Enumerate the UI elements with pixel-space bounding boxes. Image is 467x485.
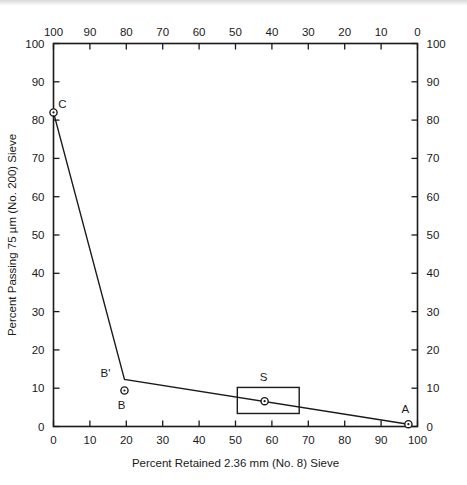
x-tick-label-bottom: 90: [375, 434, 388, 446]
data-point-center-A: [407, 423, 409, 425]
y-tick-label-left: 90: [32, 76, 45, 88]
y-tick-label-left: 100: [25, 38, 44, 50]
point-label-A: A: [402, 403, 410, 415]
y-tick-label-left: 10: [32, 382, 45, 394]
x-tick-label-bottom: 20: [120, 434, 133, 446]
x-axis-title: Percent Retained 2.36 mm (No. 8) Sieve: [132, 457, 339, 469]
x-tick-label-bottom: 0: [50, 434, 56, 446]
y-tick-label-right: 100: [427, 38, 446, 50]
x-tick-label-top: 40: [266, 26, 279, 38]
y-tick-label-right: 70: [427, 152, 440, 164]
x-tick-label-top: 100: [44, 26, 63, 38]
y-tick-label-right: 20: [427, 344, 440, 356]
x-tick-label-bottom: 60: [266, 434, 279, 446]
y-tick-label-left: 70: [32, 152, 45, 164]
y-tick-label-right: 0: [427, 421, 433, 433]
x-tick-label-bottom: 10: [84, 434, 97, 446]
y-tick-label-right: 80: [427, 114, 440, 126]
y-axis-title: Percent Passing 75 µm (No. 200) Sieve: [6, 134, 18, 336]
data-point-center-B: [123, 389, 125, 391]
x-tick-label-bottom: 70: [302, 434, 315, 446]
y-tick-label-left: 50: [32, 229, 45, 241]
x-tick-label-top: 0: [414, 26, 420, 38]
y-tick-label-right: 10: [427, 382, 440, 394]
point-label-C: C: [58, 98, 66, 110]
x-tick-label-top: 20: [338, 26, 351, 38]
x-tick-label-top: 90: [84, 26, 97, 38]
x-tick-label-bottom: 80: [338, 434, 351, 446]
sieve-gradation-chart: 0102030405060708090100100908070605040302…: [0, 0, 467, 485]
x-tick-label-top: 80: [120, 26, 133, 38]
x-tick-label-bottom: 30: [156, 434, 169, 446]
x-tick-label-top: 10: [375, 26, 388, 38]
y-tick-label-left: 0: [38, 421, 44, 433]
y-tick-label-right: 30: [427, 306, 440, 318]
chart-canvas: 0102030405060708090100100908070605040302…: [0, 0, 467, 485]
y-tick-label-left: 20: [32, 344, 45, 356]
x-tick-label-bottom: 100: [408, 434, 427, 446]
y-tick-label-right: 90: [427, 76, 440, 88]
y-tick-label-left: 60: [32, 191, 45, 203]
y-tick-label-right: 40: [427, 267, 440, 279]
point-label-Bprime: B': [101, 367, 111, 379]
y-tick-label-left: 40: [32, 267, 45, 279]
point-label-B: B: [118, 399, 126, 411]
y-tick-label-right: 60: [427, 191, 440, 203]
y-tick-label-left: 80: [32, 114, 45, 126]
x-tick-label-top: 70: [156, 26, 169, 38]
y-tick-label-left: 30: [32, 306, 45, 318]
x-tick-label-top: 30: [302, 26, 315, 38]
data-point-center-S: [264, 400, 266, 402]
x-tick-label-top: 50: [229, 26, 242, 38]
x-tick-label-top: 60: [193, 26, 206, 38]
point-label-S: S: [260, 371, 268, 383]
x-tick-label-bottom: 50: [229, 434, 242, 446]
data-point-center-C: [52, 111, 54, 113]
x-tick-label-bottom: 40: [193, 434, 206, 446]
y-tick-label-right: 50: [427, 229, 440, 241]
